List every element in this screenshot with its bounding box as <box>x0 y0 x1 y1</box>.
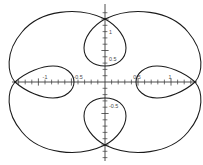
x-tick-label-0point5: 0.5 <box>133 74 141 80</box>
axes-group <box>12 4 197 161</box>
x-tick-label-negative-0point5: -0.5 <box>73 74 82 80</box>
plot-canvas: 1 0.5 -0.5 -1 -0.5 0.5 1 <box>0 0 203 165</box>
y-tick-label-negative-0point5: -0.5 <box>109 103 118 109</box>
curve-outer-lobe-upper-left <box>9 12 105 82</box>
y-tick-label-0point5: 0.5 <box>109 56 117 62</box>
curve-outer-lobe-lower-right <box>105 82 201 152</box>
polar-plot-figure: 1 0.5 -0.5 -1 -0.5 0.5 1 <box>0 0 203 165</box>
curve-outer-lobe-lower-left <box>9 82 105 152</box>
x-tick-label-negative-1: -1 <box>43 74 48 80</box>
curve-outer-lobe-upper-right <box>105 12 201 82</box>
x-tick-label-1: 1 <box>169 74 172 80</box>
y-tick-label-1: 1 <box>109 29 112 35</box>
